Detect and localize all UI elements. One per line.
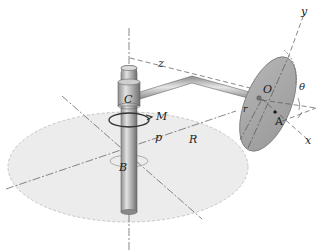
label-r-small: r — [243, 105, 247, 114]
label-m: M — [156, 111, 167, 122]
arm — [140, 76, 260, 101]
label-a: A — [275, 116, 283, 127]
label-z: z — [158, 58, 164, 69]
label-o: O — [263, 84, 272, 95]
label-p: p — [155, 132, 162, 143]
point-o-hub — [257, 96, 261, 100]
mechanics-diagram — [0, 0, 318, 252]
shaft-bottom — [121, 210, 137, 215]
label-b: B — [119, 162, 127, 173]
label-x: x — [305, 135, 311, 146]
label-theta: θ — [299, 82, 305, 92]
label-c: C — [124, 94, 132, 105]
theta-arc — [298, 98, 300, 110]
y-axis — [288, 14, 304, 58]
point-a-dot — [273, 110, 276, 113]
rotor-disc — [228, 49, 308, 159]
label-y: y — [301, 6, 307, 17]
label-r-big: R — [189, 134, 197, 145]
